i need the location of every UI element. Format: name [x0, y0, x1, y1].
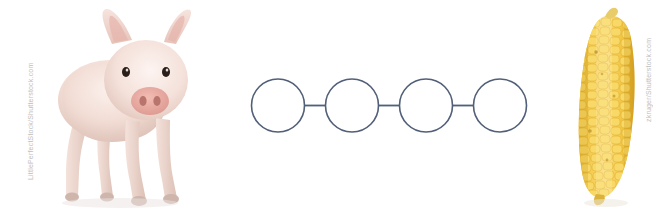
chain-circle-3 [400, 79, 453, 132]
piglet-watermark: LittlePerfectStock/Shutterstock.com [27, 63, 34, 181]
chain-circle-4 [474, 79, 527, 132]
piglet-photo [0, 0, 230, 214]
corn-kernels [576, 10, 636, 205]
screenshot-canvas: LittlePerfectStock/Shutterstock.com [0, 0, 668, 214]
chain-circle-1 [252, 79, 305, 132]
chain-circle-2 [326, 79, 379, 132]
chain-diagram [245, 70, 540, 142]
piglet-illustration [58, 9, 191, 208]
corn-watermark: zkruger/Shutterstock.com [645, 38, 652, 122]
corn-illustration [576, 8, 636, 207]
corn-photo [566, 0, 668, 214]
